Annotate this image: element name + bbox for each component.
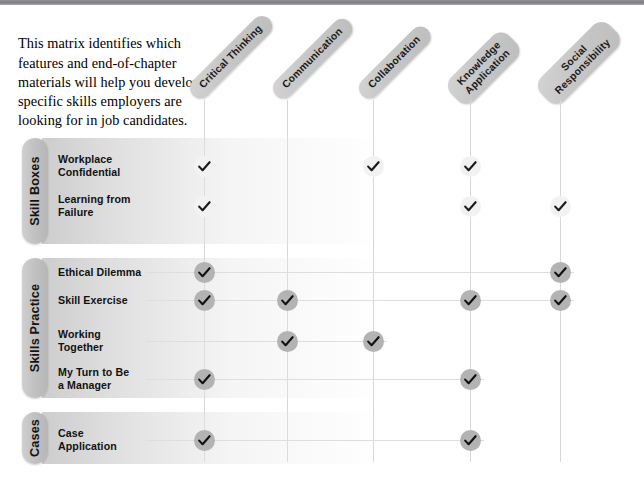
category-tab-label: Cases [28,419,42,457]
column-header-collaboration: Collaboration [355,22,435,102]
checkmark-working-together-collaboration [363,331,384,352]
row-label-skill-exercise: Skill Exercise [58,294,128,307]
row-label-my-turn-to-be-a-manager: My Turn to Bea Manager [58,366,129,391]
checkmark-skill-exercise-knowledge-application [460,290,481,311]
row-label-line1: Skill Exercise [58,294,128,307]
checkmark-workplace-confidential-critical-thinking [194,156,215,177]
checkmark-case-application-knowledge-application [460,430,481,451]
checkmark-workplace-confidential-collaboration [363,156,384,177]
checkmark-working-together-communication [277,331,298,352]
row-label-line1: Learning from [58,193,131,206]
checkmark-workplace-confidential-knowledge-application [460,156,481,177]
category-tab-label: Skills Practice [28,284,42,372]
checkmark-ethical-dilemma-critical-thinking [194,262,215,283]
intro-paragraph: This matrix identifies which features an… [18,34,214,130]
row-label-working-together: WorkingTogether [58,328,103,353]
category-tab-cases[interactable]: Cases [22,412,48,464]
row-label-ethical-dilemma: Ethical Dilemma [58,266,141,279]
skills-matrix-figure: This matrix identifies which features an… [0,0,644,477]
category-tab-skills-practice[interactable]: Skills Practice [22,258,48,398]
column-header-label: Collaboration [366,34,423,91]
row-label-line1: Working [58,328,103,341]
checkmark-my-turn-to-be-a-manager-critical-thinking [194,369,215,390]
row-label-learning-from-failure: Learning fromFailure [58,193,131,218]
checkmark-my-turn-to-be-a-manager-knowledge-application [460,369,481,390]
column-gridline-knowledge-application [470,100,471,462]
row-connector-working-together [146,341,387,342]
row-label-line2: Confidential [58,166,120,179]
row-label-line2: a Manager [58,379,129,392]
checkmark-learning-from-failure-critical-thinking [194,196,215,217]
checkmark-case-application-critical-thinking [194,430,215,451]
column-header-knowledge-application: KnowledgeApplication [443,27,524,108]
checkmark-ethical-dilemma-social-responsibility [550,262,571,283]
checkmark-learning-from-failure-social-responsibility [550,196,571,217]
category-tab-skill-boxes[interactable]: Skill Boxes [22,138,48,244]
checkmark-skill-exercise-communication [277,290,298,311]
column-header-social-responsibility: SocialResponsibility [533,17,625,109]
row-label-line2: Together [58,341,103,354]
checkmark-skill-exercise-critical-thinking [194,290,215,311]
row-label-line1: Case [58,427,117,440]
row-label-line1: Ethical Dilemma [58,266,141,279]
category-tab-label: Skill Boxes [28,156,42,225]
column-header-communication: Communication [269,14,357,102]
row-label-workplace-confidential: WorkplaceConfidential [58,153,120,178]
row-label-line2: Application [58,440,117,453]
checkmark-skill-exercise-social-responsibility [550,290,571,311]
row-label-line1: Workplace [58,153,120,166]
row-label-case-application: CaseApplication [58,427,117,452]
row-label-line1: My Turn to Be [58,366,129,379]
column-header-label: Communication [280,25,345,90]
top-rule-divider [0,0,644,5]
checkmark-learning-from-failure-knowledge-application [460,196,481,217]
row-label-line2: Failure [58,206,131,219]
